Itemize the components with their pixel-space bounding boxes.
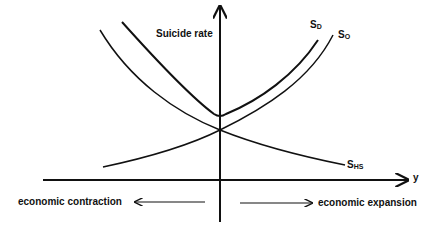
curve-label-s-o: SO	[338, 30, 350, 40]
y-axis-label: Suicide rate	[156, 29, 213, 39]
curve-s-hs	[100, 30, 345, 165]
economic-expansion-label: economic expansion	[318, 198, 417, 208]
curve-s-o	[103, 35, 333, 167]
x-axis-label: y	[413, 173, 419, 183]
economic-contraction-label: economic contraction	[18, 197, 122, 207]
curve-label-s-d: SD	[310, 20, 322, 30]
curve-label-s-hs: SHS	[347, 160, 363, 170]
